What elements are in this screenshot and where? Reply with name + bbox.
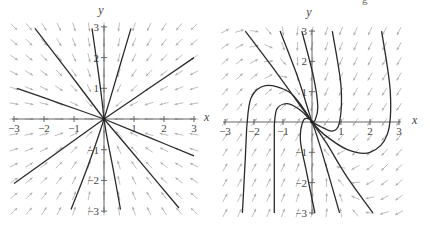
x-tick-label: 2 <box>161 122 167 134</box>
arrowhead-icon <box>145 103 148 105</box>
equilibrium-point <box>310 120 314 124</box>
arrowhead-icon <box>325 178 328 181</box>
equilibrium-point <box>102 117 106 121</box>
x-tick-label: 3 <box>396 125 402 137</box>
arrowhead-icon <box>190 148 193 150</box>
solution-curve-trajectory-3 <box>302 31 318 122</box>
solution-curve-trajectory-6 <box>104 119 194 156</box>
cropped-corner-mark: g <box>362 0 368 5</box>
y-tick-label: 3 <box>94 21 100 33</box>
arrowhead-icon <box>325 193 328 196</box>
arrowhead-icon <box>296 48 299 51</box>
y-tick-label: −3 <box>295 207 307 219</box>
arrowhead-icon <box>117 161 119 164</box>
x-tick-label: −1 <box>68 122 80 134</box>
solution-curve-trajectory-1 <box>245 31 312 122</box>
arrowhead-icon <box>73 28 75 31</box>
solution-curve-trajectory-8 <box>242 127 246 213</box>
arrowhead-icon <box>325 48 327 51</box>
right-phase-portrait: −3−2−1123321−1−2−3xy <box>219 5 418 219</box>
arrowhead-icon <box>73 207 75 210</box>
arrowhead-icon <box>296 63 299 66</box>
arrowhead-icon <box>190 88 193 90</box>
x-tick-label: 1 <box>338 125 344 137</box>
y-tick-label: −3 <box>87 205 99 217</box>
x-tick-label: −3 <box>8 122 20 134</box>
arrowhead-icon <box>132 207 134 210</box>
x-axis-label: x <box>411 113 418 127</box>
arrowhead-icon <box>282 48 284 51</box>
arrowhead-icon <box>325 32 327 35</box>
x-tick-label: −1 <box>277 125 289 137</box>
x-tick-label: −2 <box>248 125 260 137</box>
axes: −3−2−1123321−1−2−3xy <box>8 3 210 217</box>
arrowhead-icon <box>60 133 63 135</box>
left-phase-portrait: −3−2−1123321−1−2−3xy <box>8 3 210 217</box>
x-tick-label: 3 <box>191 122 197 134</box>
arrowhead-icon <box>145 133 148 135</box>
arrowhead-icon <box>339 193 341 196</box>
arrowhead-icon <box>132 28 134 31</box>
x-tick-label: 2 <box>367 125 373 137</box>
phase-portrait-figure: g −3−2−1123321−1−2−3xy −3−2−1123321−1−2−… <box>0 0 430 226</box>
solution-curve-trajectory-7 <box>104 119 179 208</box>
arrowhead-icon <box>88 74 90 77</box>
y-tick-label: 1 <box>94 82 100 94</box>
y-tick-label: −2 <box>295 177 307 189</box>
arrowhead-icon <box>297 194 299 197</box>
axes: −3−2−1123321−1−2−3xy <box>219 5 418 219</box>
y-tick-label: −2 <box>87 174 99 186</box>
arrowhead-icon <box>15 148 18 150</box>
y-tick-label: 2 <box>302 55 308 67</box>
x-tick-label: −3 <box>219 125 231 137</box>
x-tick-label: −2 <box>38 122 50 134</box>
y-axis-label: y <box>305 5 312 19</box>
x-axis-label: x <box>203 110 210 124</box>
solution-curve-trajectory-5 <box>104 58 194 119</box>
solution-curve-trajectory-4 <box>312 31 391 153</box>
y-axis-label: y <box>97 3 104 17</box>
